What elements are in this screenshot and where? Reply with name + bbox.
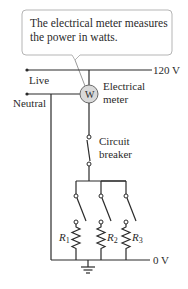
breaker-bottom-contact xyxy=(87,162,91,166)
ground-voltage-label: 0 V xyxy=(153,254,169,267)
breaker-top-contact xyxy=(87,135,91,139)
breaker-label-line-2: breaker xyxy=(99,148,132,161)
switch-3-blade xyxy=(127,198,136,221)
ground-icon xyxy=(81,260,95,273)
resistor-3-label: R3 xyxy=(132,231,143,247)
branch-3 xyxy=(101,181,136,260)
meter-label-line-1: Electrical xyxy=(103,80,145,93)
resistor-1-icon xyxy=(72,224,80,260)
resistor-2-label: R2 xyxy=(107,231,118,247)
live-label: Live xyxy=(29,74,49,87)
callout-line-2: the power in watts. xyxy=(30,30,170,44)
neutral-label: Neutral xyxy=(13,97,46,110)
breaker-switch-blade xyxy=(87,140,90,161)
switch-3-top-contact xyxy=(124,194,128,198)
callout-pointer xyxy=(75,60,85,86)
switch-1-bottom-contact xyxy=(74,220,78,224)
meter-symbol: W xyxy=(85,88,94,101)
switch-2-bottom-contact xyxy=(99,220,103,224)
callout-text: The electrical meter measures the power … xyxy=(30,16,170,44)
breaker-label-line-1: Circuit xyxy=(99,135,130,148)
switch-2-top-contact xyxy=(99,194,103,198)
meter-label-line-2: meter xyxy=(103,93,128,106)
resistor-3-icon xyxy=(122,224,130,260)
branch-1 xyxy=(72,181,86,260)
branch-2 xyxy=(97,181,111,260)
switch-3-bottom-contact xyxy=(124,220,128,224)
switch-1-top-contact xyxy=(74,194,78,198)
resistor-2-icon xyxy=(97,224,105,260)
switch-2-blade xyxy=(102,198,111,221)
callout-line-1: The electrical meter measures xyxy=(30,16,170,30)
live-voltage-label: 120 V xyxy=(153,64,180,77)
resistor-1-label: R1 xyxy=(59,231,70,247)
switch-1-blade xyxy=(77,198,86,221)
